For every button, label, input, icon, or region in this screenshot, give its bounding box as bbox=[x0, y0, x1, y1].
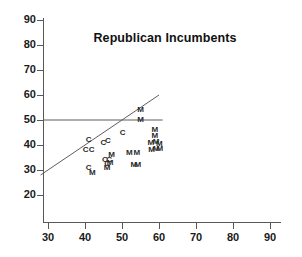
x-tick-label: 40 bbox=[79, 232, 91, 243]
x-tick-label: 30 bbox=[42, 232, 54, 243]
y-tick-mark bbox=[37, 170, 43, 171]
y-tick-label: 70 bbox=[24, 64, 36, 75]
y-tick-label: 60 bbox=[24, 89, 36, 100]
data-point-m: M bbox=[107, 159, 114, 167]
y-tick-mark bbox=[37, 120, 43, 121]
x-tick-mark bbox=[85, 223, 86, 229]
data-point-c: C bbox=[89, 146, 95, 154]
y-tick-label: 20 bbox=[24, 189, 36, 200]
scatter-chart: Republican Incumbents 2030405060708090 3… bbox=[0, 0, 302, 257]
y-tick-mark bbox=[37, 45, 43, 46]
data-point-m: M bbox=[156, 145, 163, 153]
x-tick-label: 90 bbox=[264, 232, 276, 243]
y-tick-label: 80 bbox=[24, 39, 36, 50]
data-point-c: C bbox=[120, 129, 126, 137]
x-tick-label: 80 bbox=[227, 232, 239, 243]
x-tick-mark bbox=[122, 223, 123, 229]
x-tick-mark bbox=[196, 223, 197, 229]
x-tick-mark bbox=[159, 223, 160, 229]
data-point-m: M bbox=[135, 161, 142, 169]
data-point-m: M bbox=[126, 149, 133, 157]
x-axis-line bbox=[43, 222, 281, 223]
data-point-c: C bbox=[86, 136, 92, 144]
x-tick-mark bbox=[270, 223, 271, 229]
x-tick-label: 70 bbox=[190, 232, 202, 243]
y-tick-label: 30 bbox=[24, 164, 36, 175]
x-tick-label: 60 bbox=[153, 232, 165, 243]
y-axis-line bbox=[43, 18, 44, 223]
data-point-c: C bbox=[105, 137, 111, 145]
y-tick-label: 90 bbox=[24, 14, 36, 25]
y-tick-mark bbox=[37, 195, 43, 196]
y-tick-mark bbox=[37, 145, 43, 146]
data-point-m: M bbox=[137, 116, 144, 124]
y-tick-mark bbox=[37, 95, 43, 96]
y-tick-label: 50 bbox=[24, 114, 36, 125]
y-tick-label: 40 bbox=[24, 139, 36, 150]
data-point-m: M bbox=[137, 106, 144, 114]
x-tick-mark bbox=[233, 223, 234, 229]
x-tick-mark bbox=[48, 223, 49, 229]
data-point-m: M bbox=[133, 149, 140, 157]
data-point-m: M bbox=[89, 169, 96, 177]
x-tick-label: 50 bbox=[116, 232, 128, 243]
data-point-c: C bbox=[83, 146, 89, 154]
y-tick-mark bbox=[37, 70, 43, 71]
chart-title: Republican Incumbents bbox=[0, 31, 302, 45]
y-tick-mark bbox=[37, 20, 43, 21]
